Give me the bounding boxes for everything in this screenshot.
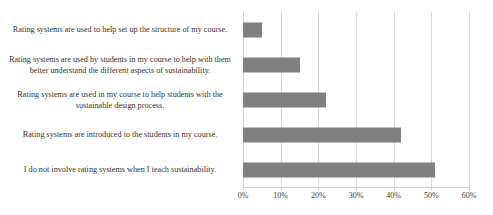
bar-series — [243, 12, 469, 187]
category-label: Rating systems are used in my course to … — [0, 88, 240, 111]
tick-mark — [394, 187, 395, 190]
tick-label: 30% — [349, 191, 364, 200]
x-axis-tick-labels: 0%10%20%30%40%50%60% — [243, 191, 470, 205]
tick-mark — [356, 187, 357, 190]
tick-mark — [318, 187, 319, 190]
plot-area — [243, 12, 469, 187]
category-label: Rating systems are introduced to the stu… — [0, 129, 240, 141]
bar — [243, 127, 401, 142]
bar — [243, 162, 435, 177]
tick-mark — [243, 187, 244, 190]
bar — [243, 57, 300, 72]
tick-label: 20% — [311, 191, 326, 200]
tick-mark — [469, 187, 470, 190]
category-label: I do not involve rating systems when I t… — [0, 164, 240, 176]
category-label: Rating systems are used to help set up t… — [0, 24, 240, 36]
tick-label: 50% — [424, 191, 439, 200]
tick-mark — [431, 187, 432, 190]
bar — [243, 92, 326, 107]
tick-label: 40% — [386, 191, 401, 200]
tick-label: 60% — [462, 191, 477, 200]
horizontal-bar-chart: Rating systems are used to help set up t… — [0, 0, 493, 215]
category-axis-labels: Rating systems are used to help set up t… — [0, 12, 240, 187]
tick-label: 10% — [273, 191, 288, 200]
tick-mark — [281, 187, 282, 190]
tick-label: 0% — [238, 191, 249, 200]
gridline-60pct — [469, 12, 470, 187]
bar — [243, 22, 262, 37]
category-label: Rating systems are used by students in m… — [0, 53, 240, 76]
